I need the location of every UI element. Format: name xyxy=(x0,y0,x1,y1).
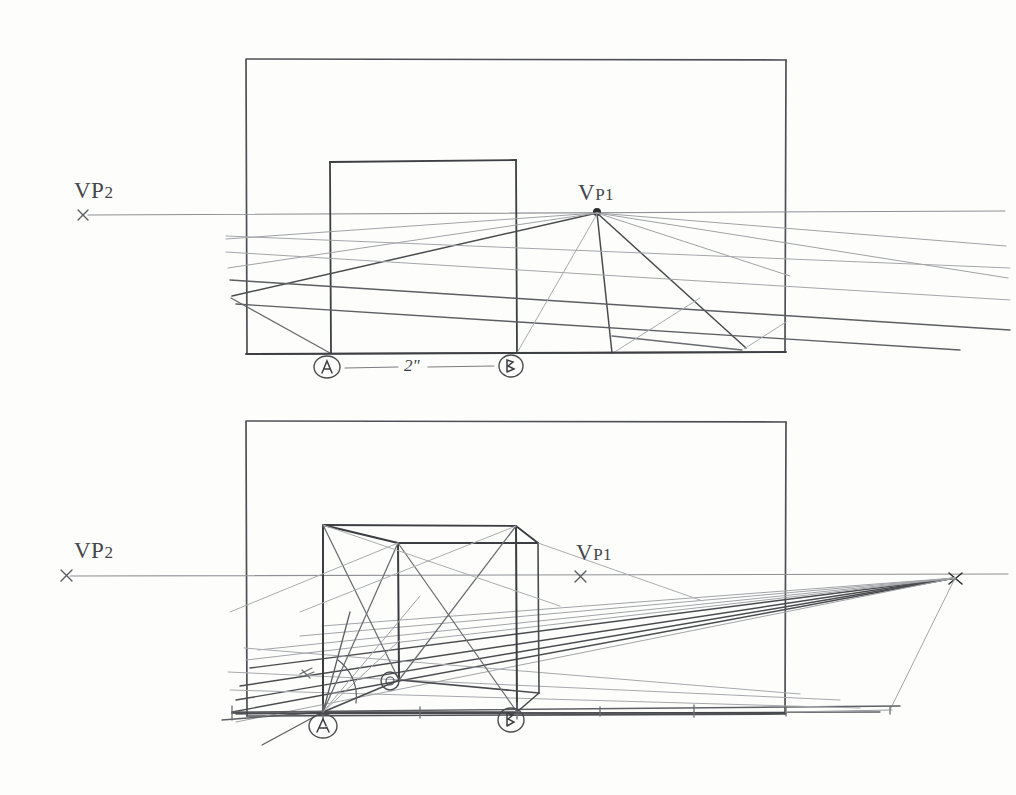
perspective-drawing-canvas xyxy=(0,0,1016,795)
bottom-vp2-label: VP2 xyxy=(74,538,113,564)
drawing-sheet: VP2 VP1 2" VP2 VP1 xyxy=(0,0,1016,795)
bottom-vp1-label-main: V xyxy=(576,540,593,565)
top-letter-b-glyph xyxy=(507,360,514,372)
top-measure-point-b xyxy=(499,355,523,377)
top-vp2-rays-light xyxy=(226,236,1010,300)
top-letter-a-glyph xyxy=(322,361,332,373)
bottom-vp2-label-main: VP xyxy=(74,538,104,563)
top-vp1-label-sub: P1 xyxy=(595,185,614,204)
top-vp1-label-main: V xyxy=(578,180,595,205)
bottom-panel-group xyxy=(61,421,1008,745)
top-vp2-marker xyxy=(78,210,88,220)
bottom-vp1-marker xyxy=(575,571,586,582)
top-dimension-label: 2" xyxy=(404,356,420,376)
bottom-vp2-label-sub: 2 xyxy=(104,543,113,562)
cube-rear-vertical-edge xyxy=(538,543,539,693)
top-vp2-label-main: VP xyxy=(74,178,104,203)
top-vp2-rays xyxy=(230,280,1010,350)
top-vp2-label-sub: 2 xyxy=(104,183,113,202)
top-diagonal-lines xyxy=(231,298,742,353)
top-vp1-rays-light xyxy=(226,213,1008,278)
top-square xyxy=(330,160,517,353)
top-vp2-label: VP2 xyxy=(74,178,113,204)
top-vp1-label: VP1 xyxy=(578,180,614,206)
bottom-letter-a-glyph xyxy=(317,719,329,732)
top-ground-line xyxy=(246,352,786,354)
top-horizon-line xyxy=(88,211,1005,215)
bottom-vp1-label: VP1 xyxy=(576,540,612,566)
cube-construction-lines xyxy=(230,525,700,612)
top-panel-group xyxy=(78,59,1010,378)
bottom-vp1-label-sub: P1 xyxy=(593,545,612,564)
